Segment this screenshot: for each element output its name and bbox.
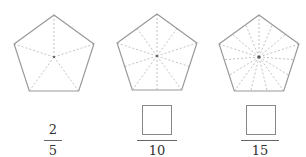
spoke-line: [137, 29, 157, 56]
fraction-bar: [44, 140, 62, 141]
center-point: [257, 55, 260, 58]
spoke-line: [259, 57, 294, 60]
spoke-line: [246, 25, 259, 57]
spoke-line: [232, 34, 259, 57]
spoke-line: [14, 44, 54, 57]
spoke-line: [259, 25, 272, 57]
spoke-line: [219, 44, 259, 57]
numerator-answer-box[interactable]: [246, 105, 276, 135]
spoke-line: [125, 56, 157, 67]
spoke-line: [54, 57, 79, 91]
denominator: 10: [136, 144, 178, 157]
fraction-blank-over-fifteen: 15: [240, 104, 280, 157]
spoke-line: [224, 57, 259, 60]
denominator: 15: [240, 144, 280, 157]
spoke-line: [229, 57, 259, 75]
spoke-line: [157, 56, 189, 67]
fraction-bar: [241, 140, 279, 141]
numerator-answer-box[interactable]: [142, 105, 172, 135]
spoke-line: [29, 57, 54, 91]
spoke-line: [132, 56, 157, 90]
spoke-line: [157, 29, 177, 56]
fraction-blank-over-ten: 10: [136, 104, 178, 157]
numerator: 2: [40, 123, 66, 136]
pentagon-5-parts: [14, 15, 94, 91]
spoke-line: [259, 34, 286, 57]
spoke-line: [157, 56, 182, 90]
spoke-line: [251, 57, 259, 91]
spoke-line: [259, 57, 267, 91]
spoke-line: [259, 57, 289, 75]
spoke-line: [117, 43, 157, 56]
spoke-line: [54, 44, 94, 57]
fraction-two-fifths: 2 5: [40, 121, 66, 157]
center-point: [53, 56, 55, 58]
fraction-bar: [137, 140, 177, 141]
denominator: 5: [40, 144, 66, 157]
pentagon-10-parts: [117, 14, 197, 90]
spoke-line: [259, 44, 299, 57]
spoke-line: [157, 43, 197, 56]
pentagon-15-parts: [219, 15, 299, 91]
center-point: [156, 55, 158, 57]
